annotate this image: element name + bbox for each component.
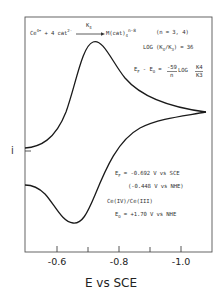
nernst-denominator: n	[170, 72, 173, 78]
product-label: M(cat)	[106, 30, 126, 36]
x-axis-ticks	[57, 246, 181, 252]
reverse-scan-curve	[25, 112, 206, 223]
k-ratio-numerator: K4	[196, 64, 203, 70]
forward-scan-curve	[25, 42, 206, 148]
log-k-ratio: LOG (K4/K3) = 36	[143, 44, 193, 52]
reaction-condition: (n = 3, 4)	[156, 29, 189, 35]
k-sub: 4	[89, 25, 91, 30]
reaction-equation: Ce4+ + 4 cat2-	[30, 28, 72, 36]
nernst-log: LOG	[178, 67, 188, 73]
cat-charge: 2-	[67, 28, 72, 33]
e0-value: = +1.70 V vs NHE	[121, 211, 177, 217]
standard-potential: EO = +1.70 V vs NHE	[115, 211, 176, 219]
log-value: ) = 36	[174, 44, 194, 50]
x-tick-label-0.6: -0.6	[48, 256, 67, 267]
reaction-plus-cat: + 4 cat	[41, 30, 67, 36]
y-axis-label: i	[11, 145, 14, 156]
x-tick-label-0.8: -0.8	[110, 256, 129, 267]
nernst-relation: EF - EO =	[134, 66, 162, 74]
reaction-product: M(cat)4n-8	[106, 28, 136, 38]
x-tick-label-1.0: -1.0	[172, 256, 191, 267]
x-axis-label: E vs SCE	[85, 276, 137, 290]
nernst-numerator: -59	[167, 64, 177, 70]
log-prefix: LOG (K	[143, 44, 163, 50]
minus-e0: - E	[140, 66, 153, 72]
redox-couple-label: Ce(IV)/Ce(III)	[107, 198, 153, 204]
ef-sce-value: = -0.692 V vs SCE	[121, 170, 180, 176]
product-sub: 4	[126, 33, 128, 38]
arrow-label-k4: K4	[86, 22, 92, 30]
product-charge: n-8	[128, 28, 136, 33]
k-ratio-denominator: K3	[196, 72, 203, 78]
equals: =	[155, 66, 162, 72]
formal-potential-nhe: (-0.448 V vs NHE)	[128, 183, 184, 189]
formal-potential-sce: EF = -0.692 V vs SCE	[115, 170, 179, 178]
reaction-arrowhead	[101, 32, 105, 35]
